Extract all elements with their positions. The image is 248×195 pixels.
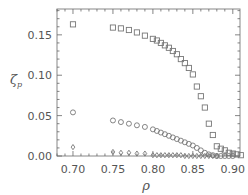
square-marker bbox=[134, 30, 139, 35]
x-tick-label: 0.80 bbox=[141, 163, 166, 176]
x-tick-label: 0.75 bbox=[101, 163, 126, 176]
y-tick-label: 0.10 bbox=[28, 69, 53, 82]
x-tick-label: 0.85 bbox=[181, 163, 206, 176]
diamond-marker bbox=[171, 153, 175, 158]
diamond-marker bbox=[155, 153, 159, 158]
square-marker bbox=[70, 22, 75, 27]
data-markers bbox=[70, 22, 243, 159]
square-marker bbox=[126, 27, 131, 32]
square-marker bbox=[202, 105, 207, 110]
circle-marker bbox=[110, 118, 115, 123]
square-marker bbox=[142, 33, 147, 38]
square-marker bbox=[110, 25, 115, 30]
circle-marker bbox=[142, 124, 147, 129]
y-axis-label: ζp bbox=[10, 72, 22, 89]
circle-marker bbox=[70, 110, 75, 115]
square-marker bbox=[194, 84, 199, 89]
square-marker bbox=[190, 72, 195, 77]
x-tick-label: 0.70 bbox=[61, 163, 86, 176]
diamond-marker bbox=[127, 150, 131, 155]
x-axis-label: ρ bbox=[141, 178, 150, 193]
axis-ticks bbox=[57, 9, 240, 156]
diamond-marker bbox=[71, 145, 75, 150]
square-marker bbox=[198, 94, 203, 99]
square-marker bbox=[210, 132, 215, 137]
circle-marker bbox=[134, 123, 139, 128]
diamond-marker bbox=[119, 150, 123, 155]
x-tick-label: 0.90 bbox=[221, 163, 246, 176]
square-marker bbox=[206, 121, 211, 126]
y-tick-labels: 0.000.050.100.15 bbox=[28, 29, 53, 163]
scatter-chart: 0.700.750.800.850.90 0.000.050.100.15 ρ … bbox=[0, 0, 248, 195]
y-tick-label: 0.00 bbox=[28, 150, 53, 163]
plot-frame bbox=[57, 9, 240, 156]
y-axis-label-subscript: p bbox=[17, 80, 22, 89]
diamond-marker bbox=[179, 153, 183, 158]
y-tick-label: 0.15 bbox=[28, 29, 53, 42]
y-tick-label: 0.05 bbox=[28, 110, 53, 123]
square-marker bbox=[118, 26, 123, 31]
circle-marker bbox=[126, 121, 131, 126]
x-tick-labels: 0.700.750.800.850.90 bbox=[61, 163, 245, 176]
circle-marker bbox=[118, 120, 123, 125]
diamond-marker bbox=[163, 153, 167, 158]
